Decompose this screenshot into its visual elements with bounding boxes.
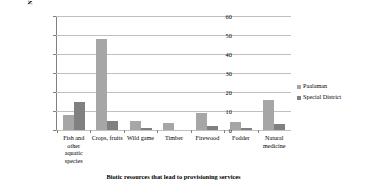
y-axis-tick-mark [53,73,56,74]
legend-swatch-icon [297,96,301,100]
bar[interactable] [96,39,107,130]
bar[interactable] [230,122,241,130]
legend: PaalamanSpecial District [297,83,341,105]
x-axis-category-label: Fish and other aquatic species [57,134,90,164]
bar-groups [57,17,291,130]
bar-group [224,17,257,130]
y-axis-tick-mark [53,54,56,55]
x-axis-tick-mark [258,130,259,133]
x-axis-tick-mark [124,130,125,133]
legend-item[interactable]: Paalaman [297,83,341,90]
y-axis-tick-mark [53,111,56,112]
bar[interactable] [63,115,74,130]
bar[interactable] [263,100,274,130]
x-axis-labels: Fish and other aquatic speciesCrops, fru… [57,134,291,164]
x-axis-category-label: Firewood [191,134,224,164]
x-axis-tick-mark [90,130,91,133]
legend-label: Paalaman [303,83,327,89]
chart-container: Number of plants and animals mentioned b… [0,0,368,192]
x-axis-tick-mark [191,130,192,133]
x-axis-tick-mark [224,130,225,133]
x-axis-tick-mark [57,130,58,133]
bar-group [57,17,90,130]
bar[interactable] [74,102,85,131]
bar[interactable] [130,121,141,131]
x-axis-category-label: Timber [157,134,190,164]
x-axis-category-label: Natural medicine [258,134,291,164]
x-axis-title: Biotic resources that lead to provisioni… [56,173,291,180]
bar[interactable] [107,121,118,131]
legend-swatch-icon [297,85,301,89]
y-axis-tick-mark [53,130,56,131]
bar[interactable] [163,123,174,130]
bar[interactable] [274,124,285,130]
bar-group [90,17,123,130]
y-axis-title: Number of plants and animals mentioned b… [26,0,52,8]
bar[interactable] [207,126,218,130]
bar-group [124,17,157,130]
bar[interactable] [196,113,207,130]
y-axis-tick-mark [53,92,56,93]
legend-item[interactable]: Special District [297,94,341,101]
x-axis-category-label: Crops, fruits [90,134,123,164]
x-axis-category-label: Fodder [224,134,257,164]
bar-group [157,17,190,130]
bar-group [258,17,291,130]
x-axis-tick-mark [157,130,158,133]
bar-group [191,17,224,130]
plot-area: 0102030405060 [56,17,291,131]
y-axis-tick-mark [53,35,56,36]
x-axis-category-label: Wild game [124,134,157,164]
legend-label: Special District [303,94,341,100]
bar[interactable] [241,128,252,130]
y-axis-tick-mark [53,16,56,17]
bar[interactable] [141,128,152,130]
